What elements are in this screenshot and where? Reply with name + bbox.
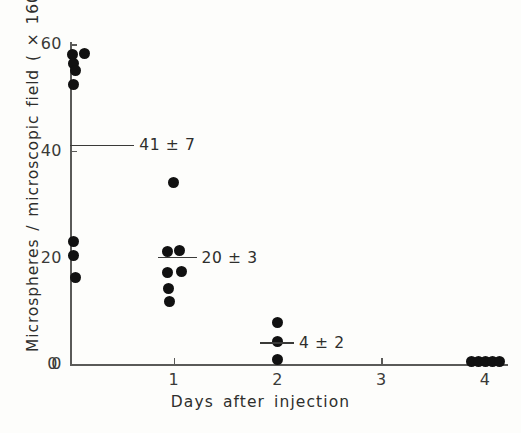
scatter-plot-figure: 020406001234 41 ± 720 ± 34 ± 2 Days afte… — [0, 0, 521, 433]
data-point — [70, 65, 81, 76]
data-point — [68, 236, 79, 247]
data-point — [162, 267, 173, 278]
y-axis-title: Microspheres / microscopic field ( × 160… — [24, 0, 42, 352]
x-tick-label: 2 — [263, 370, 293, 389]
x-tick-label: 1 — [159, 370, 189, 389]
data-point — [70, 272, 81, 283]
data-point — [79, 48, 90, 59]
data-point — [176, 266, 187, 277]
x-axis-line — [70, 364, 508, 366]
x-axis-title: Days after injection — [0, 393, 521, 411]
data-point — [68, 250, 79, 261]
y-tick-mark — [70, 151, 77, 153]
x-tick-label: 0 — [34, 354, 58, 373]
x-tick-label: 4 — [470, 370, 500, 389]
data-point — [164, 296, 175, 307]
mean-bar — [158, 257, 196, 259]
data-point — [163, 283, 174, 294]
data-point — [272, 317, 283, 328]
mean-bar — [70, 145, 134, 147]
mean-bar — [260, 342, 294, 344]
plot-area: 020406001234 41 ± 720 ± 34 ± 2 — [0, 0, 521, 433]
mean-annotation-label: 20 ± 3 — [202, 249, 258, 267]
data-point — [162, 246, 173, 257]
x-tick-label: 3 — [366, 370, 396, 389]
y-axis-line — [70, 42, 72, 366]
data-point — [174, 245, 185, 256]
mean-annotation-label: 4 ± 2 — [299, 334, 345, 352]
x-tick-mark — [381, 358, 383, 365]
y-tick-mark — [70, 44, 77, 46]
data-point — [168, 177, 179, 188]
mean-annotation-label: 41 ± 7 — [139, 136, 195, 154]
x-tick-mark — [174, 358, 176, 365]
y-tick-mark — [70, 364, 77, 366]
data-point — [68, 79, 79, 90]
